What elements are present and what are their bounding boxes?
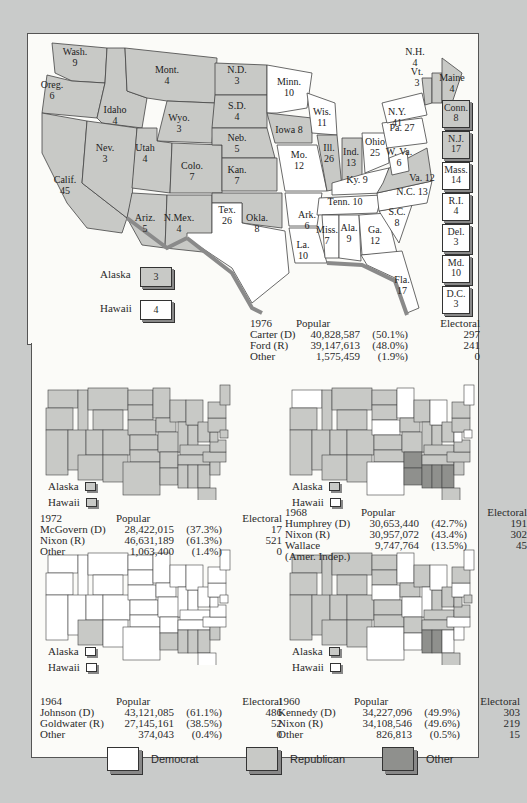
state-in <box>188 590 198 613</box>
state-ev: 3 <box>103 153 108 164</box>
hawaii-label: Hawaii <box>100 302 132 314</box>
state-ev: 4 <box>113 115 118 126</box>
state-label: Mont. <box>155 64 179 75</box>
state-az <box>78 620 103 645</box>
state-ne <box>372 585 400 600</box>
state-label: La. <box>296 239 309 250</box>
state-ev: 4 <box>165 75 170 86</box>
state-wy <box>93 410 123 430</box>
state-az <box>322 455 347 480</box>
state-label: Ga. <box>368 224 382 235</box>
results-1960: 1960PopularElectoralKennedy (D)34,227,09… <box>278 696 520 740</box>
state-tx <box>367 462 404 495</box>
state-nc <box>447 452 470 462</box>
result-row: Other1,063,400(1.4%)0 <box>40 546 282 557</box>
side-box-ev: 8 <box>443 113 469 123</box>
state-ev: 13 <box>346 157 356 168</box>
state-mt <box>332 388 372 410</box>
state-ev: 10 <box>284 87 294 98</box>
inset-label: Hawaii <box>292 661 324 673</box>
state-mo <box>158 432 180 452</box>
electoral-votes: 52 <box>222 718 282 729</box>
state-fl <box>198 653 216 665</box>
state-mn <box>153 553 170 583</box>
state-nc <box>447 617 470 627</box>
state-ok <box>130 450 160 462</box>
state-wa <box>48 390 78 408</box>
state-or <box>46 573 73 595</box>
state-ev: 4 <box>177 223 182 234</box>
state-al <box>188 630 198 653</box>
state-az <box>322 620 347 645</box>
state-ut <box>330 595 347 620</box>
state-tx <box>123 462 160 495</box>
state-ev: 3 <box>415 77 420 88</box>
candidate-name: Other <box>40 546 112 557</box>
state-ev: 10 <box>298 250 308 261</box>
state-in <box>432 425 442 448</box>
state-sd <box>372 570 397 585</box>
side-box-ev: 3 <box>443 299 469 309</box>
state-label: Ala. <box>341 222 358 233</box>
inset-box <box>86 498 97 507</box>
candidate-name: Other <box>250 351 292 362</box>
inset-box <box>330 663 341 672</box>
state-co <box>103 430 130 455</box>
inset-box <box>85 482 96 491</box>
state-ev: 4 <box>143 153 148 164</box>
democrat-swatch <box>107 747 139 771</box>
alaska-1972: Alaska <box>48 480 96 492</box>
state-label: Calif. <box>54 174 77 185</box>
state-or <box>290 573 317 595</box>
hawaii-ev: 4 <box>154 304 159 315</box>
inset-label: Hawaii <box>48 661 80 673</box>
state-la <box>404 468 422 485</box>
state-ev: 8 <box>395 217 400 228</box>
state-ar <box>404 452 422 468</box>
result-row: Other1,575,459(1.9%)0 <box>250 351 480 362</box>
state-label: Ariz. <box>135 212 155 223</box>
state-label: Wash. <box>63 46 87 57</box>
state-ev: 3 <box>177 123 182 134</box>
state-ev: 41 <box>392 117 402 128</box>
hawaii-1976: Hawaii <box>100 302 132 314</box>
state-mi <box>186 400 203 425</box>
legend-label: Democrat <box>151 753 199 765</box>
state-ar <box>404 617 422 633</box>
state-ca <box>46 430 68 475</box>
state-mo <box>402 597 424 617</box>
state-mi <box>430 565 447 590</box>
results-1968: 1968PopularElectoralHumphrey (D)30,653,4… <box>285 507 527 562</box>
inset-label: Hawaii <box>48 496 80 508</box>
state-sd <box>372 405 397 420</box>
state-sd <box>128 570 153 585</box>
state-label: Mo. <box>291 149 307 160</box>
popular-votes: 9,747,764 <box>357 540 419 551</box>
result-row: (Amer. Indep.) <box>285 551 527 562</box>
state-az <box>78 455 103 480</box>
state-mo <box>158 597 180 617</box>
side-box-ev: 14 <box>443 175 469 185</box>
state-wv <box>210 597 218 607</box>
state-md <box>220 595 228 603</box>
state-ms <box>178 630 188 653</box>
legend-other: Other <box>382 747 454 771</box>
result-row: Other374,043(0.4%)0 <box>40 729 282 740</box>
state-or <box>290 408 317 430</box>
state-mn <box>397 388 414 418</box>
state-ev: 26 <box>324 153 334 164</box>
state-tx <box>367 627 404 660</box>
results-1972: 1972PopularElectoralMcGovern (D)28,422,0… <box>40 513 282 557</box>
state-wv <box>454 432 462 442</box>
state-ga <box>198 630 210 653</box>
state-label: Iowa 8 <box>275 124 303 135</box>
state-fl <box>198 488 216 500</box>
state-label: Kan. <box>227 164 246 175</box>
electoral-votes: 521 <box>222 535 282 546</box>
popular-pct <box>419 551 467 562</box>
state-ks <box>374 600 402 615</box>
candidate-name: Other <box>40 729 112 740</box>
state-ut <box>86 430 103 455</box>
state-wa <box>48 555 78 573</box>
electoral-votes: 0 <box>408 351 480 362</box>
